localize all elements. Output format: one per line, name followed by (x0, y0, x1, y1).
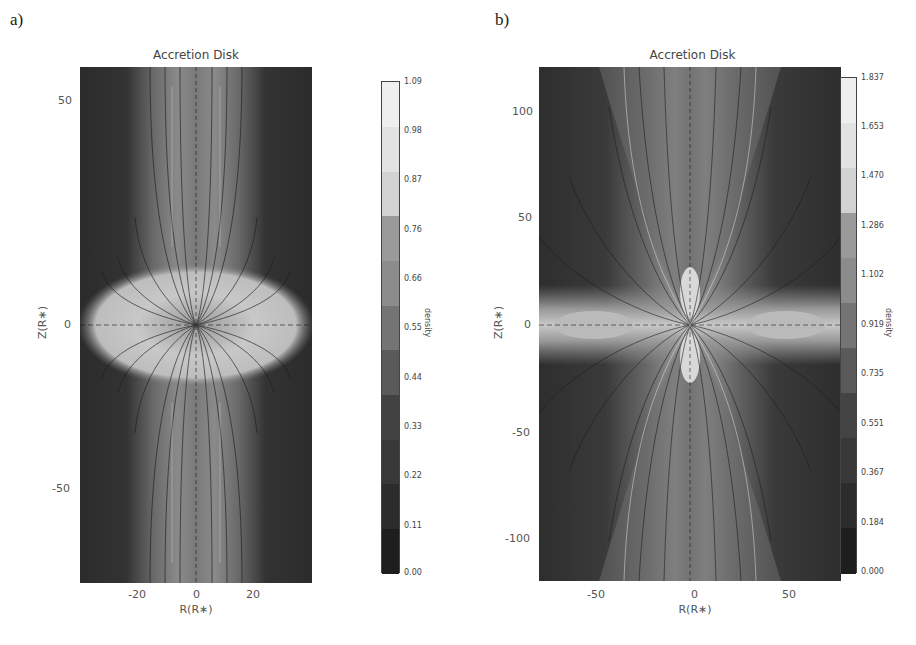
cbar-a-tick: 0.66 (404, 274, 422, 283)
cbar-a-tick: 0.00 (404, 568, 422, 577)
cbar-a-tick: 0.55 (404, 323, 422, 332)
cbar-a-tick: 0.11 (404, 521, 422, 530)
cbar-a-tick: 0.33 (404, 422, 422, 431)
panel-b-colorbar-title: density (884, 308, 893, 337)
panel-a-ylabel: Z(R∗) (36, 303, 49, 343)
panel-a-colorbar (381, 81, 400, 573)
cbar-b-tick: 0.000 (861, 567, 884, 576)
cbar-a-tick: 1.09 (404, 77, 422, 86)
panel-a-xtick-0: 0 (193, 588, 200, 601)
panel-b-ytick-neg100: -100 (505, 532, 530, 545)
panel-b-label: b) (495, 10, 509, 30)
cbar-b-tick: 0.367 (861, 468, 884, 477)
cbar-b-tick: 1.653 (861, 122, 884, 131)
panel-a-density-map (80, 67, 312, 583)
panel-b-density-map (539, 67, 841, 581)
cbar-b-tick: 0.735 (861, 369, 884, 378)
panel-b-ytick-50: 50 (518, 211, 532, 224)
cbar-b-tick: 0.551 (861, 419, 884, 428)
panel-b-xtick-50: 50 (782, 588, 796, 601)
panel-b-ytick-100: 100 (512, 105, 533, 118)
cbar-a-tick: 0.87 (404, 175, 422, 184)
cbar-a-tick: 0.98 (404, 126, 422, 135)
panel-a-xtick-20: 20 (246, 588, 260, 601)
panel-b-xtick-0: 0 (691, 588, 698, 601)
cbar-b-tick: 0.919 (861, 320, 884, 329)
panel-a-label: a) (10, 10, 23, 30)
panel-b-title: Accretion Disk (539, 48, 846, 62)
panel-a-ytick-50: 50 (58, 94, 72, 107)
panel-b-ylabel: Z(R∗) (492, 303, 505, 343)
panel-a-title: Accretion Disk (80, 48, 312, 62)
panel-a-xtick-neg20: -20 (128, 588, 146, 601)
cbar-b-tick: 1.837 (861, 73, 884, 82)
cbar-a-tick: 0.22 (404, 471, 422, 480)
cbar-a-tick: 0.76 (404, 225, 422, 234)
panel-a-heatmap (80, 67, 312, 583)
cbar-b-tick: 1.470 (861, 171, 884, 180)
cbar-a-tick: 0.44 (404, 373, 422, 382)
cbar-b-tick: 0.184 (861, 518, 884, 527)
panel-a-xlabel: R(R∗) (176, 603, 216, 616)
panel-b-xlabel: R(R∗) (675, 603, 715, 616)
panel-b-heatmap (539, 67, 841, 581)
panel-b-xtick-neg50: -50 (587, 588, 605, 601)
panel-a-ytick-0: 0 (64, 318, 71, 331)
cbar-b-tick: 1.102 (861, 270, 884, 279)
cbar-b-tick: 1.286 (861, 221, 884, 230)
panel-b-ytick-0: 0 (524, 318, 531, 331)
panel-b-colorbar (840, 77, 857, 573)
panel-a-ytick-neg50: -50 (52, 482, 70, 495)
panel-a-colorbar-title: density (423, 308, 432, 337)
panel-b-ytick-neg50: -50 (512, 426, 530, 439)
